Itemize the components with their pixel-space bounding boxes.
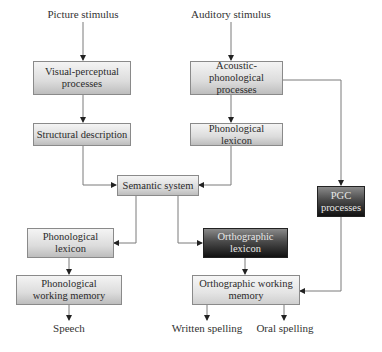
semantic-system-label: Semantic system <box>123 180 194 192</box>
acoustic-phonological-line1: Acoustic-phonological <box>193 60 280 84</box>
visual-perceptual-line1: Visual-perceptual <box>45 66 119 78</box>
phonological-lexicon-output-box: Phonological lexicon <box>27 228 114 258</box>
orthographic-wm-line2: memory <box>199 290 293 302</box>
phonological-lexicon-output-line1: Phonological <box>43 231 98 243</box>
phonological-lexicon-output-line2: lexicon <box>43 243 98 255</box>
pgc-line1: PGC <box>321 190 361 202</box>
pgc-line2: processes <box>321 202 361 214</box>
phonological-wm-line1: Phonological <box>33 278 106 290</box>
speech-label: Speech <box>44 322 94 334</box>
visual-perceptual-box: Visual-perceptual processes <box>33 61 131 95</box>
phonological-lexicon-input-box: Phonological lexicon <box>190 123 283 146</box>
visual-perceptual-line2: processes <box>45 78 119 90</box>
structural-description-label: Structural description <box>37 129 128 141</box>
written-spelling-label: Written spelling <box>167 322 247 334</box>
orthographic-lexicon-line1: Orthographic <box>218 231 274 243</box>
oral-spelling-label: Oral spelling <box>254 322 316 334</box>
phonological-working-memory-box: Phonological working memory <box>16 275 122 305</box>
orthographic-lexicon-line2: lexicon <box>218 243 274 255</box>
phonological-wm-line2: working memory <box>33 290 106 302</box>
phonological-lexicon-input-label: Phonological lexicon <box>193 123 280 147</box>
orthographic-working-memory-box: Orthographic working memory <box>192 275 300 305</box>
orthographic-wm-line1: Orthographic working <box>199 278 293 290</box>
acoustic-phonological-line2: processes <box>193 84 280 96</box>
structural-description-box: Structural description <box>33 123 131 146</box>
auditory-stimulus-label: Auditory stimulus <box>189 8 273 20</box>
pgc-processes-box: PGC processes <box>317 186 365 217</box>
orthographic-lexicon-box: Orthographic lexicon <box>203 228 288 258</box>
acoustic-phonological-box: Acoustic-phonological processes <box>190 61 283 95</box>
picture-stimulus-label: Picture stimulus <box>43 8 123 20</box>
semantic-system-box: Semantic system <box>117 175 199 196</box>
